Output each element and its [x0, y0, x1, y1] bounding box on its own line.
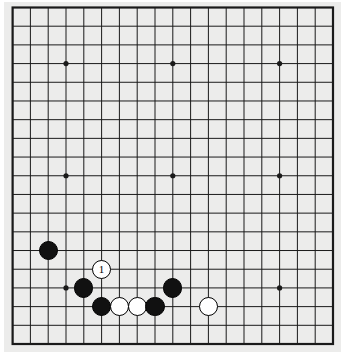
star-point: [277, 173, 282, 178]
black-stone-d6[interactable]: [39, 241, 58, 260]
black-stone-g3[interactable]: [145, 297, 164, 316]
white-stone-e3[interactable]: [110, 297, 129, 316]
move-number-label: 1: [93, 261, 110, 278]
star-point: [63, 61, 68, 66]
go-board[interactable]: [0, 0, 345, 360]
star-point: [63, 173, 68, 178]
black-stone-c4[interactable]: [74, 278, 93, 297]
star-point: [170, 173, 175, 178]
go-diagram-root: 1: [0, 0, 345, 360]
star-point: [277, 61, 282, 66]
star-point: [277, 285, 282, 290]
white-stone-move-1[interactable]: 1: [92, 260, 111, 279]
white-stone-k3[interactable]: [199, 297, 218, 316]
black-stone-h4[interactable]: [163, 278, 182, 297]
star-point: [63, 285, 68, 290]
white-stone-f3[interactable]: [128, 297, 147, 316]
star-point: [170, 61, 175, 66]
